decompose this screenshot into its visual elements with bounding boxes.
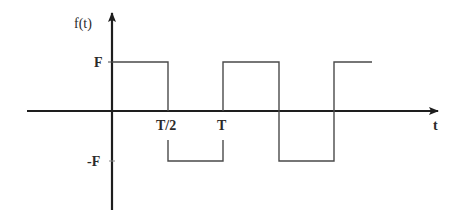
wave-segment-3	[334, 62, 372, 111]
wave-segment-1	[112, 62, 168, 111]
amplitude-pos-label: F	[94, 55, 103, 70]
half-period-label: T/2	[156, 118, 176, 133]
x-axis-label: t	[433, 118, 438, 133]
y-axis-label: f(t)	[74, 16, 92, 32]
amplitude-neg-label: -F	[87, 154, 100, 169]
square-wave-diagram: f(t) t F -F T/2 T	[0, 0, 462, 219]
period-label: T	[217, 118, 227, 133]
wave-segment-2	[223, 62, 279, 111]
wave-segment-neg-1	[168, 140, 223, 161]
wave-segment-neg-2	[279, 111, 334, 161]
